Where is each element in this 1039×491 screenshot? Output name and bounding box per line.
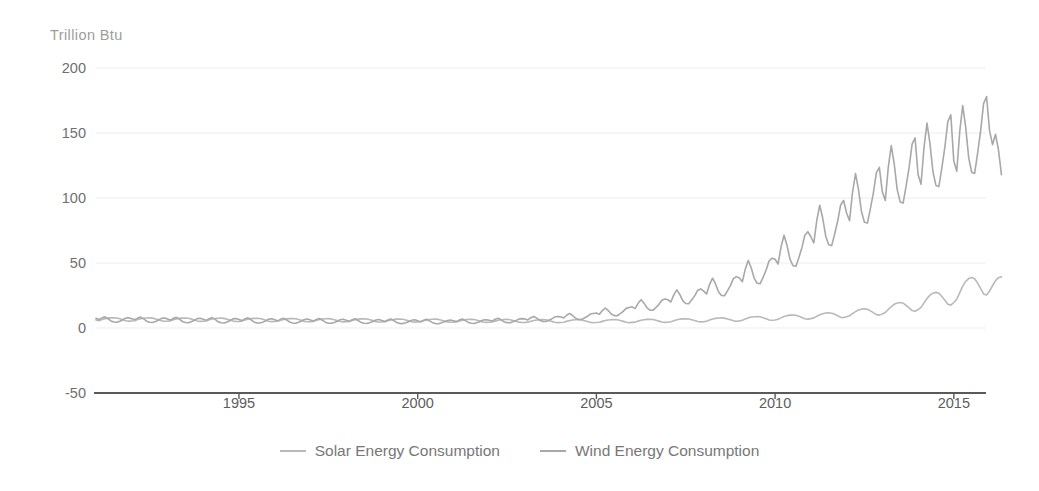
x-tick-label: 2000 [402, 395, 434, 411]
y-tick-label: 150 [40, 125, 86, 141]
y-tick-label: 200 [40, 60, 86, 76]
y-tick-label: 0 [40, 320, 86, 336]
series-line-solar [96, 277, 1001, 323]
y-tick-label: 50 [40, 255, 86, 271]
x-tick-label: 2005 [580, 395, 612, 411]
y-tick-label: -50 [40, 385, 86, 401]
legend-item-wind[interactable]: Wind Energy Consumption [540, 442, 759, 460]
legend-item-solar[interactable]: Solar Energy Consumption [280, 442, 500, 460]
x-tick-label: 1995 [223, 395, 255, 411]
x-tick-label: 2010 [759, 395, 791, 411]
series-line-wind [96, 97, 1001, 324]
legend-label-solar: Solar Energy Consumption [315, 442, 500, 460]
x-tick-label: 2015 [938, 395, 970, 411]
chart-plot-area [0, 0, 1039, 491]
chart-legend: Solar Energy Consumption Wind Energy Con… [0, 442, 1039, 460]
legend-label-wind: Wind Energy Consumption [575, 442, 759, 460]
legend-swatch-wind-icon [540, 450, 566, 452]
legend-swatch-solar-icon [280, 450, 306, 452]
y-tick-label: 100 [40, 190, 86, 206]
line-chart: Trillion Btu 200150100500-50 19952000200… [0, 0, 1039, 491]
y-axis-tick-labels: 200150100500-50 [40, 0, 86, 491]
